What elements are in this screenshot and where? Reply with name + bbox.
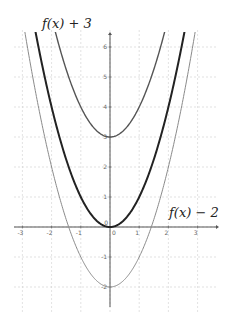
y-tick-label: 1 — [103, 193, 107, 200]
x-tick-label: -2 — [47, 229, 53, 236]
x-tick-label: 3 — [194, 229, 198, 236]
label-f-plus-3: f(x) + 3 — [41, 16, 92, 31]
x-tick-label: 1 — [135, 229, 139, 236]
origin-label: 0 — [104, 219, 108, 226]
y-tick-label: 6 — [103, 43, 107, 50]
y-tick-label: -1 — [101, 253, 107, 260]
x-tick-label: 2 — [164, 229, 168, 236]
x-tick-label: -1 — [76, 229, 82, 236]
y-tick-label: 2 — [103, 163, 107, 170]
function-graph: -3-2-10123-2-10123456 f(x) + 3 f(x) − 2 — [0, 0, 228, 321]
y-tick-label: 4 — [103, 103, 107, 110]
y-tick-label: 5 — [103, 73, 107, 80]
y-axis-arrow-icon — [108, 32, 112, 35]
x-tick-label: -3 — [17, 229, 23, 236]
x-axis-arrow-icon — [216, 225, 219, 229]
label-f-minus-2: f(x) − 2 — [168, 205, 219, 220]
x-tick-label: 0 — [112, 229, 116, 236]
